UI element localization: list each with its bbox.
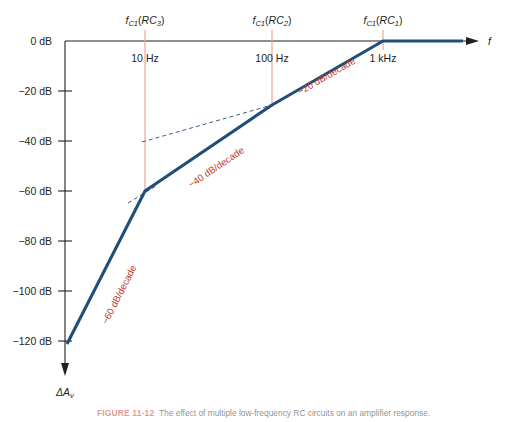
axis-group bbox=[61, 37, 479, 376]
slope-label-20db: −20 dB/decade bbox=[295, 55, 357, 97]
x-tick-label-1khz: 1 kHz bbox=[370, 52, 397, 64]
y-axis-arrowhead bbox=[61, 363, 69, 376]
fc-label-rc1-rc: RC bbox=[380, 14, 396, 26]
y-tick-label-m100dB: −100 dB bbox=[13, 285, 52, 297]
asymptote-dash-40db bbox=[142, 105, 272, 142]
figure-caption-container: FIGURE 11-12 The effect of multiple low-… bbox=[97, 408, 497, 422]
y-axis-label-subscript: v bbox=[70, 391, 75, 400]
figure-caption-number: FIGURE 11-12 bbox=[97, 408, 154, 418]
slope-annotation-group: −20 dB/decade −40 dB/decade −60 dB/decad… bbox=[99, 55, 357, 326]
fc-label-rc2: fC1(RC2) bbox=[252, 14, 291, 28]
fc-label-rc2-close: ) bbox=[288, 14, 292, 26]
bode-plot-figure: 0 dB −20 dB −40 dB −60 dB −80 dB −100 dB… bbox=[0, 0, 514, 422]
y-axis-label-text: ΔA bbox=[55, 386, 70, 398]
fc-label-rc1: fC1(RC1) bbox=[363, 14, 402, 28]
x-axis-arrowhead bbox=[466, 37, 479, 45]
fc-label-rc3: fC1(RC3) bbox=[125, 14, 164, 28]
y-tick-label-m20dB: −20 dB bbox=[18, 85, 52, 97]
fc-label-rc3-close: ) bbox=[161, 14, 165, 26]
fc-label-rc1-sub: C1 bbox=[366, 19, 376, 28]
y-tick-label-m120dB: −120 dB bbox=[13, 335, 52, 347]
y-tick-label-m40dB: −40 dB bbox=[18, 135, 52, 147]
y-axis-label: ΔAv bbox=[55, 386, 75, 400]
bode-plot-canvas: 0 dB −20 dB −40 dB −60 dB −80 dB −100 dB… bbox=[0, 0, 514, 422]
fc-label-rc1-close: ) bbox=[399, 14, 403, 26]
fc-label-rc2-sub: C1 bbox=[255, 19, 265, 28]
y-tick-label-0dB: 0 dB bbox=[30, 35, 52, 47]
slope-label-40db: −40 dB/decade bbox=[186, 144, 246, 189]
fc-label-rc3-sub: C1 bbox=[128, 19, 138, 28]
fc-label-rc3-rc: RC bbox=[142, 14, 158, 26]
figure-caption: FIGURE 11-12 The effect of multiple low-… bbox=[97, 408, 497, 419]
x-tick-label-10hz: 10 Hz bbox=[131, 52, 158, 64]
fc-label-rc2-rc: RC bbox=[269, 14, 285, 26]
x-axis-label: f bbox=[488, 35, 492, 47]
x-tick-labels: 10 Hz 100 Hz 1 kHz bbox=[131, 52, 396, 64]
y-tick-labels: 0 dB −20 dB −40 dB −60 dB −80 dB −100 dB… bbox=[13, 35, 52, 347]
breakpoint-label-group: fC1(RC3) fC1(RC2) fC1(RC1) bbox=[125, 14, 402, 28]
y-axis-label-group: ΔAv bbox=[55, 386, 75, 400]
x-tick-label-100hz: 100 Hz bbox=[255, 52, 288, 64]
figure-caption-text: The effect of multiple low-frequency RC … bbox=[159, 408, 430, 418]
response-curve bbox=[67, 41, 463, 344]
y-tick-label-m60dB: −60 dB bbox=[18, 185, 52, 197]
y-tick-label-m80dB: −80 dB bbox=[18, 235, 52, 247]
